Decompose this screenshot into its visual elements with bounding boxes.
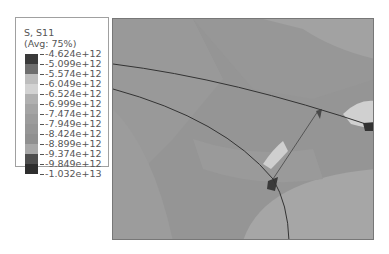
legend-variable: S, S11 (24, 27, 76, 38)
contour-field (113, 19, 374, 240)
legend-swatch (25, 54, 38, 64)
legend-swatch (25, 114, 38, 124)
legend-swatch (25, 84, 38, 94)
legend-title: S, S11 (Avg: 75%) (24, 27, 76, 49)
legend-labels: -4.624e+12 -5.099e+12 -5.574e+12 -6.049e… (40, 49, 102, 179)
legend-swatch (25, 164, 38, 174)
legend-swatch (25, 144, 38, 154)
legend-swatch (25, 124, 38, 134)
legend-swatch (25, 94, 38, 104)
contour-plot-viewport[interactable] (112, 18, 374, 240)
legend-swatch (25, 64, 38, 74)
legend-swatch (25, 154, 38, 164)
legend-color-bar (25, 54, 38, 174)
legend-swatch (25, 134, 38, 144)
legend-swatch (25, 104, 38, 114)
legend-value: -1.032e+13 (40, 169, 102, 179)
legend-swatch (25, 74, 38, 84)
contour-legend: S, S11 (Avg: 75%) -4.624e+12 -5.099e+12 … (15, 17, 109, 167)
